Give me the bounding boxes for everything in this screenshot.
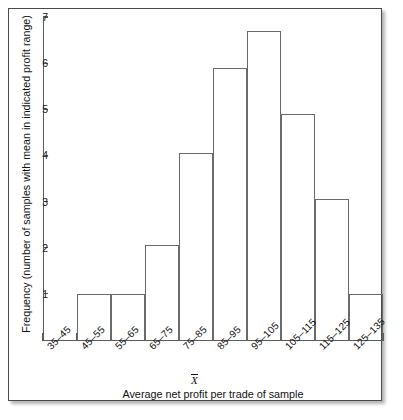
x-tick-mark — [382, 333, 383, 341]
x-axis-title: Average net profit per trade of sample — [43, 388, 383, 400]
histogram-figure: 1234567 35–4545–5555–6565–7575–8585–9595… — [0, 0, 403, 420]
x-bar-mean-marker: X — [191, 374, 198, 386]
figure-frame-border — [8, 8, 382, 401]
x-bar-glyph: X — [191, 374, 198, 386]
y-axis-title: Frequency (number of samples with mean i… — [20, 14, 32, 334]
